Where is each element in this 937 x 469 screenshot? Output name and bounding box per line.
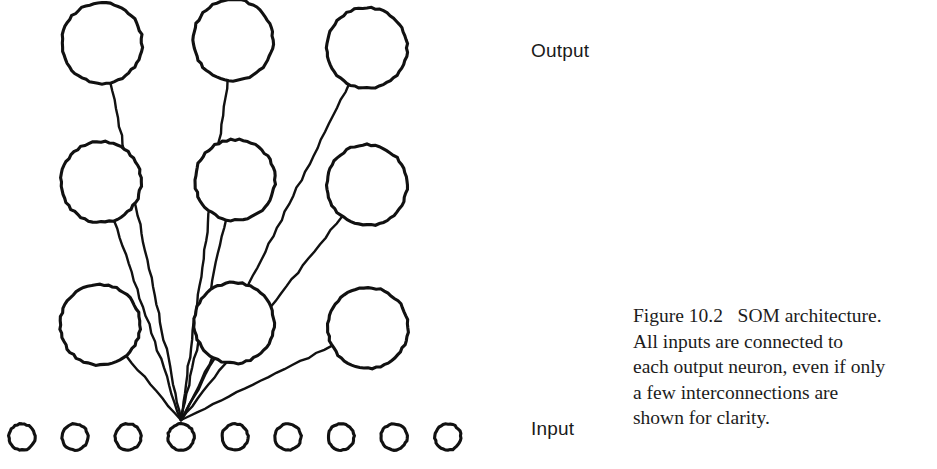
output-neuron	[328, 288, 409, 369]
caption-line: shown for clarity.	[633, 405, 933, 431]
caption-line: each output neuron, even if only	[633, 354, 933, 380]
output-neurons-group	[60, 0, 409, 369]
input-neuron	[115, 424, 141, 451]
output-neuron	[62, 3, 142, 85]
caption-line: a few interconnections are	[633, 380, 933, 406]
output-neuron	[193, 0, 274, 81]
connection-lines-group	[110, 80, 349, 420]
figure-caption: Figure 10.2 SOM architecture.All inputs …	[633, 303, 933, 431]
caption-line: All inputs are connected to	[633, 329, 933, 355]
input-neurons-group	[9, 423, 461, 450]
input-neuron	[275, 424, 302, 450]
output-layer-label: Output	[531, 40, 589, 62]
som-architecture-diagram	[0, 0, 520, 469]
caption-line: Figure 10.2 SOM architecture.	[633, 303, 933, 329]
input-neuron	[9, 424, 36, 450]
output-neuron	[326, 7, 407, 88]
input-neuron	[168, 423, 194, 450]
input-layer-label: Input	[531, 418, 574, 440]
output-neuron	[194, 282, 275, 364]
connection-line	[181, 84, 349, 420]
input-neuron	[435, 424, 461, 450]
input-neuron	[222, 424, 248, 450]
input-neuron	[62, 424, 88, 451]
output-neuron	[195, 139, 275, 221]
output-neuron	[60, 284, 141, 365]
output-neuron	[326, 144, 407, 225]
output-neuron	[61, 141, 142, 222]
input-neuron	[381, 424, 407, 451]
figure-container: Output Input Figure 10.2 SOM architectur…	[0, 0, 937, 469]
connection-line	[110, 82, 181, 420]
input-neuron	[329, 424, 355, 451]
